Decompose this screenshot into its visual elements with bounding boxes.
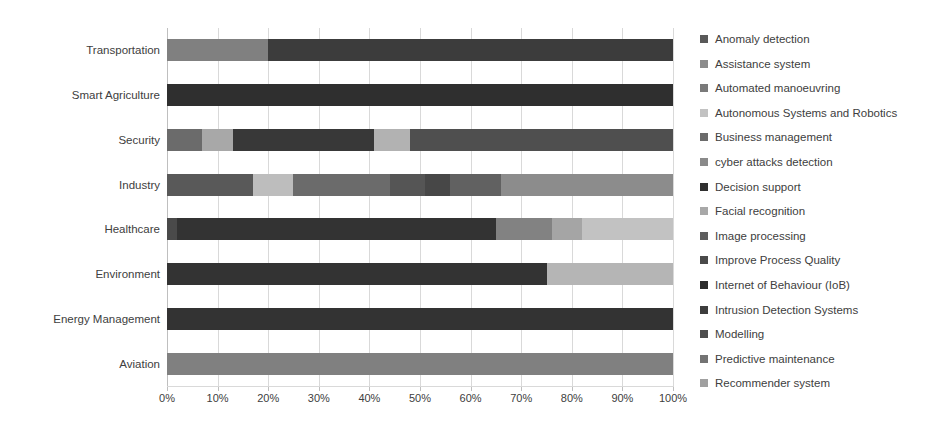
legend-swatch-icon (700, 306, 708, 314)
bar-segment[interactable] (253, 174, 293, 196)
legend-swatch-icon (700, 256, 708, 264)
x-tick-label: 80% (561, 392, 583, 404)
x-tick-label: 70% (510, 392, 532, 404)
bar-segment[interactable] (167, 84, 673, 106)
legend-label: Intrusion Detection Systems (715, 303, 858, 317)
legend-swatch-icon (700, 158, 708, 166)
bar-segment[interactable] (293, 174, 389, 196)
legend-label: Recommender system (715, 376, 830, 390)
bar-segment[interactable] (167, 129, 202, 151)
bar-segment[interactable] (167, 39, 268, 61)
legend-swatch-icon (700, 281, 708, 289)
stacked-bar[interactable] (167, 353, 673, 375)
legend-label: Facial recognition (715, 204, 805, 218)
bar-segment[interactable] (233, 129, 375, 151)
legend-swatch-icon (700, 330, 708, 338)
bar-segment[interactable] (167, 218, 177, 240)
legend-item[interactable]: Business management (700, 128, 832, 146)
bar-segment[interactable] (268, 39, 673, 61)
stacked-bar[interactable] (167, 84, 673, 106)
x-tick-label: 40% (358, 392, 380, 404)
stacked-bar[interactable] (167, 129, 673, 151)
category-label: Security (10, 133, 160, 147)
legend-swatch-icon (700, 60, 708, 68)
x-tick-label: 10% (207, 392, 229, 404)
x-tick-label: 0% (159, 392, 175, 404)
bar-segment[interactable] (552, 218, 582, 240)
legend-item[interactable]: Automated manoeuvring (700, 79, 840, 97)
legend-item[interactable]: Internet of Behaviour (IoB) (700, 276, 850, 294)
stacked-bar[interactable] (167, 263, 673, 285)
stacked-bar[interactable] (167, 39, 673, 61)
bar-segment[interactable] (547, 263, 674, 285)
legend-item[interactable]: Modelling (700, 325, 764, 343)
legend-label: Anomaly detection (715, 32, 810, 46)
stacked-bar[interactable] (167, 308, 673, 330)
legend-label: Improve Process Quality (715, 253, 840, 267)
bar-segment[interactable] (177, 218, 496, 240)
legend-label: Modelling (715, 327, 764, 341)
gridline-100% (673, 28, 674, 386)
stacked-bar[interactable] (167, 174, 673, 196)
bar-segment[interactable] (425, 174, 450, 196)
bar-segment[interactable] (582, 218, 673, 240)
legend-label: Automated manoeuvring (715, 81, 840, 95)
legend-item[interactable]: Facial recognition (700, 202, 805, 220)
bar-row (167, 263, 673, 285)
category-label: Transportation (10, 43, 160, 57)
bar-segment[interactable] (202, 129, 232, 151)
legend-label: Assistance system (715, 57, 810, 71)
legend-swatch-icon (700, 232, 708, 240)
legend-item[interactable]: Improve Process Quality (700, 251, 840, 269)
bar-segment[interactable] (410, 129, 673, 151)
legend-item[interactable]: Recommender system (700, 374, 830, 392)
legend-item[interactable]: Decision support (700, 178, 801, 196)
bar-row (167, 39, 673, 61)
bar-segment[interactable] (374, 129, 409, 151)
x-tick-label: 50% (409, 392, 431, 404)
legend-label: Image processing (715, 229, 806, 243)
bar-segment[interactable] (390, 174, 425, 196)
bar-segment[interactable] (501, 174, 673, 196)
legend-swatch-icon (700, 183, 708, 191)
chart-root: TransportationSmart AgricultureSecurityI… (0, 0, 951, 433)
legend-swatch-icon (700, 379, 708, 387)
legend-item[interactable]: Autonomous Systems and Robotics (700, 104, 897, 122)
bar-row (167, 353, 673, 375)
legend-item[interactable]: Intrusion Detection Systems (700, 301, 858, 319)
legend-swatch-icon (700, 355, 708, 363)
bar-row (167, 218, 673, 240)
bar-segment[interactable] (167, 174, 253, 196)
bar-row (167, 308, 673, 330)
x-tick-label: 60% (460, 392, 482, 404)
legend-item[interactable]: Anomaly detection (700, 30, 810, 48)
legend-swatch-icon (700, 35, 708, 43)
category-label: Aviation (10, 357, 160, 371)
category-label: Energy Management (10, 312, 160, 326)
category-label: Industry (10, 178, 160, 192)
bar-segment[interactable] (167, 353, 673, 375)
legend-label: Predictive maintenance (715, 352, 835, 366)
legend-item[interactable]: cyber attacks detection (700, 153, 833, 171)
legend-swatch-icon (700, 109, 708, 117)
bar-row (167, 174, 673, 196)
x-tick-label: 90% (611, 392, 633, 404)
stacked-bar[interactable] (167, 218, 673, 240)
bar-segment[interactable] (496, 218, 552, 240)
legend-label: Autonomous Systems and Robotics (715, 106, 897, 120)
x-axis-line (167, 386, 674, 387)
legend-item[interactable]: Predictive maintenance (700, 350, 835, 368)
legend-swatch-icon (700, 207, 708, 215)
bar-segment[interactable] (167, 308, 673, 330)
legend-label: Business management (715, 130, 832, 144)
category-label: Smart Agriculture (10, 88, 160, 102)
legend-item[interactable]: Assistance system (700, 55, 810, 73)
legend-label: Decision support (715, 180, 801, 194)
bar-row (167, 129, 673, 151)
category-label: Healthcare (10, 222, 160, 236)
chart-legend: Anomaly detectionAssistance systemAutoma… (700, 30, 945, 400)
category-label: Environment (10, 267, 160, 281)
legend-item[interactable]: Image processing (700, 227, 806, 245)
bar-segment[interactable] (450, 174, 501, 196)
bar-segment[interactable] (167, 263, 547, 285)
